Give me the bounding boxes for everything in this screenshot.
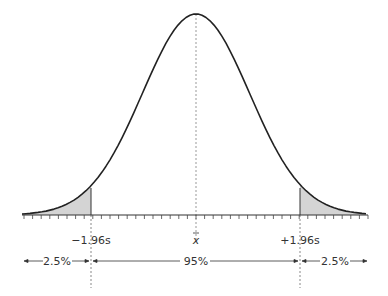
bell-curve — [22, 14, 366, 214]
center-percent: 95% — [184, 255, 208, 268]
left-tail-shaded-area — [22, 186, 91, 215]
right-tail-shaded-area — [300, 185, 366, 215]
normal-distribution-diagram: −1.96s +1.96s x 2.5% 95% 2.5% — [0, 0, 388, 296]
mean-label: x — [192, 234, 200, 247]
right-bound-label: +1.96s — [280, 234, 320, 247]
axis-ticks — [24, 215, 368, 219]
left-bound-label: −1.96s — [71, 234, 111, 247]
right-tail-percent: 2.5% — [321, 255, 349, 268]
left-tail-percent: 2.5% — [43, 255, 71, 268]
